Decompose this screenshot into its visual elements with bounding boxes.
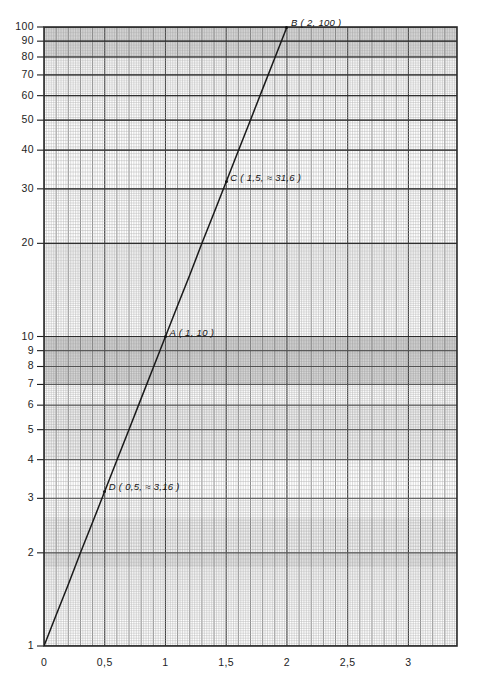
y-tick-label: 70	[22, 68, 34, 80]
y-tick-label: 9	[28, 344, 34, 356]
y-tick-label: 30	[22, 182, 34, 194]
y-tick-label: 10	[22, 330, 34, 342]
x-tick-label: 1,5	[206, 656, 246, 668]
x-tick-label: 2	[267, 656, 307, 668]
x-tick-label: 0	[24, 656, 64, 668]
semilog-chart: 123456789102030405060708090100 00,511,52…	[0, 0, 478, 685]
y-tick-label: 5	[28, 423, 34, 435]
y-tick-label: 80	[22, 50, 34, 62]
y-tick-label: 3	[28, 491, 34, 503]
x-tick-label: 1	[145, 656, 185, 668]
axis-tick-marks	[37, 27, 44, 646]
y-tick-label: 100	[15, 20, 34, 32]
x-tick-label: 2,5	[328, 656, 368, 668]
y-tick-label: 50	[22, 113, 34, 125]
y-tick-label: 20	[22, 236, 34, 248]
y-tick-label: 7	[28, 377, 34, 389]
y-tick-label: 40	[22, 143, 34, 155]
y-tick-label: 2	[28, 546, 34, 558]
y-tick-label: 4	[28, 453, 34, 465]
y-tick-label: 8	[28, 359, 34, 371]
y-tick-label: 60	[22, 89, 34, 101]
data-point-marker-a	[164, 335, 167, 338]
data-point-label-a: A ( 1, 10 )	[169, 327, 214, 338]
y-tick-label: 1	[28, 639, 34, 651]
y-tick-label: 90	[22, 34, 34, 46]
data-point-label-c: C ( 1,5, ≈ 31,6 )	[230, 172, 301, 183]
data-point-label-b: B ( 2, 100 )	[291, 17, 342, 28]
x-tick-label: 0,5	[85, 656, 125, 668]
y-tick-label: 6	[28, 398, 34, 410]
plot-canvas	[0, 0, 478, 685]
data-point-label-d: D ( 0,5, ≈ 3,16 )	[109, 481, 180, 492]
x-tick-label: 3	[388, 656, 428, 668]
